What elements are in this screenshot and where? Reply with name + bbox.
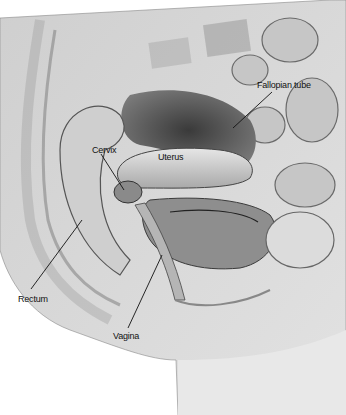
label-fallopian-tube: Fallopian tube [257,80,311,90]
label-vagina: Vagina [113,331,139,341]
anatomy-diagram: Fallopian tube Cervix Uterus Rectum Vagi… [0,0,346,415]
label-rectum: Rectum [18,294,48,304]
label-cervix: Cervix [92,145,116,155]
label-uterus: Uterus [158,152,183,162]
pelvis-illustration [0,0,346,415]
